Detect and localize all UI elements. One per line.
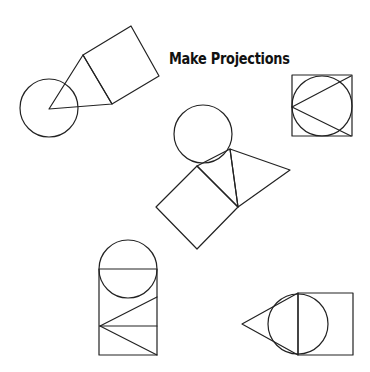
line-shape [100, 326, 157, 355]
figure-2 [292, 75, 352, 136]
triangle-shape [242, 293, 298, 355]
triangle-shape [197, 149, 238, 207]
rect-shape [298, 293, 353, 355]
square-shape [156, 166, 238, 249]
figure-5 [242, 293, 353, 355]
triangle-shape [49, 55, 112, 109]
circle-shape [174, 105, 232, 163]
figure-4 [99, 240, 157, 355]
figure-1 [20, 26, 159, 137]
figure-3 [156, 105, 290, 249]
line-shape [292, 107, 351, 136]
square-shape [83, 26, 159, 104]
triangle-shape [230, 149, 290, 207]
line-shape [100, 297, 157, 326]
line-shape [292, 76, 351, 107]
projection-worksheet: Make Projections [0, 0, 370, 372]
circle-shape [292, 76, 352, 136]
figures-canvas [0, 0, 370, 372]
